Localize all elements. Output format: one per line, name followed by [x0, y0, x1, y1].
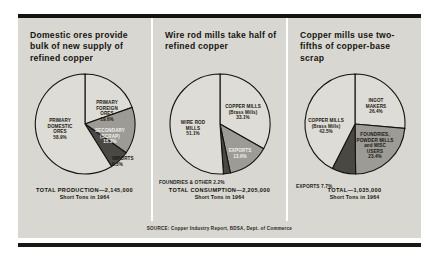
caption-total: TOTAL CONSUMPTION—2,205,000: [157, 186, 282, 194]
label-secondary-scrap: SECONDARY (SCRAP) 15.2%: [88, 128, 132, 145]
panel-production: Domestic ores provide bulk of new supply…: [18, 18, 151, 221]
label-line: 6.3%: [112, 162, 146, 168]
caption-total: TOTAL—1,035,000: [292, 186, 417, 194]
panel-scrap: Copper mills use two-fifths of copper-ba…: [286, 18, 421, 221]
label-primary-foreign-ores: PRIMARY FOREIGN ORES 19.6%: [84, 100, 130, 122]
label-copper-mills: COPPER MILLS (Brass Mills) 42.5%: [300, 118, 352, 135]
bottom-rule-divider: [18, 243, 421, 247]
panel-heading-consumption: Wire rod mills take half of refined copp…: [165, 30, 278, 53]
caption-units: Short Tons in 1964: [292, 194, 417, 202]
label-primary-domestic-ores: PRIMARY DOMESTIC ORES 58.9%: [36, 118, 84, 140]
copper-flow-infographic: Domestic ores provide bulk of new supply…: [0, 0, 439, 255]
label-imports: IMPORTS 6.3%: [112, 156, 146, 167]
panel-row: Domestic ores provide bulk of new supply…: [18, 18, 421, 221]
label-ingot-makers: INGOT MAKERS 26.4%: [356, 98, 396, 115]
pie-chart-consumption: COPPER MILLS (Brass Mills) 33.1% WIRE RO…: [153, 70, 286, 178]
label-line: 13.6%: [221, 154, 259, 160]
pie-chart-scrap: INGOT MAKERS 26.4% COPPER MILLS (Brass M…: [288, 70, 421, 178]
label-exports: EXPORTS 13.6%: [221, 148, 259, 159]
caption-production: TOTAL PRODUCTION—2,145,000 Short Tons in…: [22, 186, 147, 202]
caption-scrap: TOTAL—1,035,000 Short Tons in 1964: [292, 186, 417, 202]
label-foundries-powder-misc: FOUNDRIES, POWDER MILLS and MISC USERS 2…: [350, 132, 400, 160]
label-foundries-other: FOUNDRIES & OTHER 2.2%: [159, 180, 225, 186]
panel-heading-production: Domestic ores provide bulk of new supply…: [30, 30, 143, 64]
panel-heading-scrap: Copper mills use two-fifths of copper-ba…: [300, 30, 413, 64]
source-note: SOURCE: Copper Industry Report, BDSA, De…: [0, 226, 439, 231]
caption-units: Short Tons in 1964: [22, 194, 147, 202]
caption-total: TOTAL PRODUCTION—2,145,000: [22, 186, 147, 194]
label-line: 51.1%: [171, 131, 215, 137]
label-line: 26.4%: [356, 109, 396, 115]
label-line: 58.9%: [36, 135, 84, 141]
panel-consumption: Wire rod mills take half of refined copp…: [151, 18, 286, 221]
label-line: 42.5%: [300, 129, 352, 135]
label-line: 23.4%: [350, 154, 400, 160]
label-line: 19.6%: [84, 117, 130, 123]
label-line: 33.1%: [217, 115, 269, 121]
caption-units: Short Tons in 1964: [157, 194, 282, 202]
pie-chart-production: PRIMARY FOREIGN ORES 19.6% SECONDARY (SC…: [18, 70, 151, 178]
caption-consumption: TOTAL CONSUMPTION—2,205,000 Short Tons i…: [157, 186, 282, 202]
label-copper-mills: COPPER MILLS (Brass Mills) 33.1%: [217, 104, 269, 121]
label-line: 15.2%: [88, 139, 132, 145]
label-wire-rod-mills: WIRE ROD MILLS 51.1%: [171, 120, 215, 137]
